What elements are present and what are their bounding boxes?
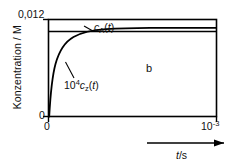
leader-line-cz <box>66 62 75 78</box>
plot-frame <box>49 20 217 117</box>
x-axis-title-unit: /s <box>179 149 187 161</box>
annotation-cz-prefactor-base: 10 <box>64 79 76 91</box>
leader-line-ca <box>84 26 92 31</box>
x-tick-max-exponent: -3 <box>213 119 220 128</box>
x-axis-arrow-head <box>214 140 224 147</box>
annotation-ca-label: cA(t) <box>94 22 114 33</box>
plot-canvas <box>0 0 239 165</box>
x-tick-max-mantissa: 10 <box>201 120 213 132</box>
x-tick-label-zero: 0 <box>44 121 50 132</box>
y-tick-label-bottom: 0 <box>39 110 45 121</box>
panel-label: b <box>146 63 152 74</box>
x-tick-label-max: 10-3 <box>201 121 219 132</box>
x-axis-title: t/s <box>176 150 187 161</box>
figure-panel-b: Konzentration / M 0,012 0 0 10-3 t/s cA(… <box>0 0 239 165</box>
y-axis-title: Konzentration / M <box>12 12 23 122</box>
annotation-cz-label: 104cz(t) <box>64 80 99 91</box>
y-tick-label-top: 0,012 <box>18 9 44 20</box>
series-curve-cz <box>49 28 216 117</box>
annotation-ca-paren-close: ) <box>111 21 115 33</box>
annotation-cz-paren-close: ) <box>95 79 99 91</box>
